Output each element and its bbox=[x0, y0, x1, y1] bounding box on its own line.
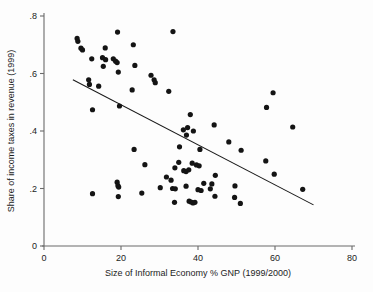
data-point bbox=[168, 178, 173, 183]
data-point bbox=[139, 191, 144, 196]
y-tick-group: 0.2.4.6.8 bbox=[29, 11, 44, 251]
data-point bbox=[186, 167, 191, 172]
data-point bbox=[170, 29, 175, 34]
data-point bbox=[264, 105, 269, 110]
data-point bbox=[101, 64, 106, 69]
data-point bbox=[197, 163, 202, 168]
data-point bbox=[131, 42, 136, 47]
data-point bbox=[142, 162, 147, 167]
y-tick-label: .8 bbox=[29, 11, 37, 21]
y-tick-label: 0 bbox=[32, 241, 37, 251]
data-point bbox=[209, 181, 214, 186]
data-point bbox=[239, 148, 244, 153]
data-point bbox=[177, 144, 182, 149]
regression-fit-line bbox=[73, 80, 314, 205]
data-point bbox=[184, 132, 189, 137]
data-point bbox=[117, 103, 122, 108]
data-point bbox=[232, 183, 237, 188]
data-point bbox=[90, 107, 95, 112]
data-point bbox=[192, 200, 197, 205]
data-point bbox=[198, 188, 203, 193]
data-point bbox=[213, 173, 218, 178]
scatter-plot-figure: 0.2.4.6.8020406080Size of Informal Econo… bbox=[0, 0, 373, 292]
x-tick-label: 60 bbox=[270, 253, 280, 263]
data-point bbox=[172, 200, 177, 205]
data-point bbox=[153, 80, 158, 85]
data-point bbox=[212, 122, 217, 127]
data-point bbox=[212, 194, 217, 199]
data-point bbox=[96, 84, 101, 89]
data-point bbox=[201, 181, 206, 186]
data-point bbox=[173, 186, 178, 191]
data-point bbox=[131, 147, 136, 152]
data-point bbox=[158, 185, 163, 190]
x-axis-title: Size of Informal Economy % GNP (1999/200… bbox=[105, 268, 291, 278]
data-point bbox=[185, 125, 190, 130]
data-point bbox=[115, 29, 120, 34]
data-point bbox=[166, 89, 171, 94]
data-point bbox=[164, 174, 169, 179]
data-point bbox=[232, 195, 237, 200]
data-points-group bbox=[75, 29, 306, 206]
data-point bbox=[86, 77, 91, 82]
data-point bbox=[148, 73, 153, 78]
axes-group bbox=[42, 13, 355, 246]
plot-canvas: 0.2.4.6.8020406080Size of Informal Econo… bbox=[0, 0, 373, 292]
data-point bbox=[238, 201, 243, 206]
data-point bbox=[191, 128, 196, 133]
y-axis-title: Share of income taxes in revenue (1999) bbox=[6, 50, 16, 213]
data-point bbox=[80, 47, 85, 52]
y-tick-label: .4 bbox=[29, 126, 37, 136]
x-tick-group: 020406080 bbox=[41, 246, 357, 263]
x-tick-label: 0 bbox=[41, 253, 46, 263]
x-tick-label: 40 bbox=[193, 253, 203, 263]
data-point bbox=[90, 191, 95, 196]
data-point bbox=[208, 186, 213, 191]
data-point bbox=[75, 39, 80, 44]
data-point bbox=[183, 184, 188, 189]
data-point bbox=[130, 87, 135, 92]
data-point bbox=[300, 187, 305, 192]
data-point bbox=[116, 184, 121, 189]
data-point bbox=[272, 172, 277, 177]
data-point bbox=[197, 147, 202, 152]
y-tick-label: .6 bbox=[29, 69, 37, 79]
data-point bbox=[89, 56, 94, 61]
data-point bbox=[115, 60, 120, 65]
data-point bbox=[132, 63, 137, 68]
y-tick-label: .2 bbox=[29, 184, 37, 194]
data-point bbox=[116, 194, 121, 199]
data-point bbox=[188, 112, 193, 117]
data-point bbox=[116, 69, 121, 74]
data-point bbox=[103, 57, 108, 62]
data-point bbox=[103, 45, 108, 50]
data-point bbox=[176, 160, 181, 165]
data-point bbox=[87, 82, 92, 87]
data-point bbox=[270, 90, 275, 95]
x-tick-label: 80 bbox=[347, 253, 357, 263]
data-point bbox=[172, 165, 177, 170]
data-point bbox=[226, 139, 231, 144]
x-tick-label: 20 bbox=[116, 253, 126, 263]
data-point bbox=[263, 158, 268, 163]
data-point bbox=[290, 124, 295, 129]
